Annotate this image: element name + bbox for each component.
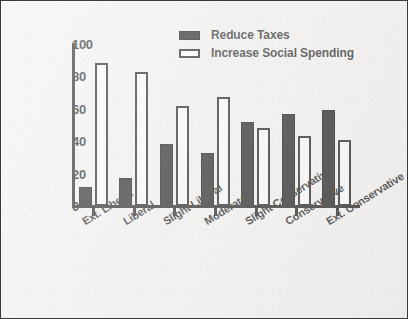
bar-increase-social-spending [95, 63, 108, 206]
legend-item-increase-social-spending: Increase Social Spending [179, 44, 354, 62]
legend-item-reduce-taxes: Reduce Taxes [179, 26, 354, 44]
bar-increase-social-spending [257, 128, 270, 206]
bar-increase-social-spending [135, 72, 148, 206]
legend-label: Reduce Taxes [211, 28, 290, 42]
y-axis-tick-label: 100 [72, 38, 93, 51]
chart-legend: Reduce Taxes Increase Social Spending [179, 26, 354, 62]
legend-swatch-outlined-rect-icon [179, 49, 200, 58]
bar-reduce-taxes [160, 144, 173, 206]
y-axis-line [72, 43, 75, 208]
bar-reduce-taxes [79, 187, 92, 206]
legend-label: Increase Social Spending [211, 46, 354, 60]
bar-increase-social-spending [338, 140, 351, 206]
legend-swatch-filled-rect-icon [179, 31, 200, 40]
chart-figure: Reduce Taxes Increase Social Spending 02… [0, 0, 408, 319]
bar-increase-social-spending [176, 106, 189, 206]
